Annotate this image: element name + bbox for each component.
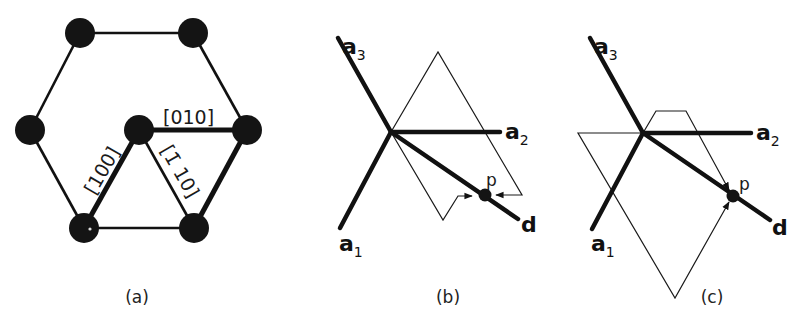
label-p: p [739,174,750,194]
panel-b-path-diagram: a3 a2 a1 d p (b) [338,34,537,307]
caption-a: (a) [125,287,149,307]
path-upper-route [643,111,729,190]
label-d: d [521,212,537,237]
atom-top-right [178,18,208,48]
bond-upper-left [30,33,80,130]
direction-label-1bar10: [1̄ 10] [157,141,205,201]
label-p: p [486,170,497,190]
bond-lower-left [30,130,84,228]
atom-top-left [65,18,95,48]
label-a3: a3 [342,34,366,63]
axis-d [643,133,770,220]
label-a1: a1 [339,231,363,260]
panel-c-path-diagram: a3 a2 a1 d p (c) [578,34,788,307]
bond-lower-right [194,130,247,228]
atom-center [124,115,154,145]
label-a2: a2 [505,119,529,148]
label-d: d [772,215,788,240]
path-right-route [391,52,522,195]
atom-left [15,115,45,145]
atom-bottom-right [179,213,209,243]
caption-b: (b) [436,287,460,307]
figure-canvas: [010] [100] [1̄ 10] (a) a3 a2 a1 d p (b)… [0,0,800,333]
panel-a-lattice: [010] [100] [1̄ 10] (a) [15,18,262,307]
axis-d [391,132,518,219]
label-a2: a2 [756,120,780,149]
point-p-dot [727,190,740,203]
atom-right [232,115,262,145]
label-a1: a1 [591,231,615,260]
path-left-route [391,132,472,220]
label-a3: a3 [594,34,618,63]
caption-c: (c) [701,287,724,307]
origin-marker [88,227,91,230]
point-p-dot [479,189,492,202]
atom-bottom-left [69,213,99,243]
direction-label-010: [010] [163,106,214,128]
axis-a1 [592,133,643,229]
axis-a1 [340,132,391,228]
